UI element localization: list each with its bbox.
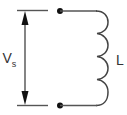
arrow-down-icon [22, 91, 29, 105]
circuit-diagram: Vs L [0, 0, 127, 115]
inductor-label: L [116, 52, 124, 68]
source-voltage-subscript: s [12, 59, 17, 69]
arrow-up-icon [22, 11, 29, 25]
inductor-coil [96, 11, 108, 106]
source-voltage-label: Vs [3, 50, 17, 69]
